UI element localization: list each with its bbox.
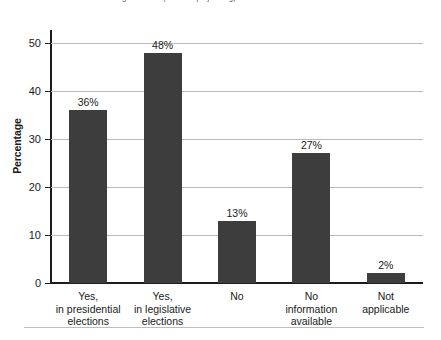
category-label-line-1: Not bbox=[341, 290, 431, 303]
bar-value-label-3: 13% bbox=[207, 208, 267, 219]
bar-value-label-4: 27% bbox=[281, 140, 341, 151]
y-tick-label-0: 0 bbox=[0, 278, 41, 289]
y-tick-label-text: 10 bbox=[0, 230, 41, 241]
y-axis-title: Percentage bbox=[11, 101, 23, 191]
bar-3 bbox=[218, 221, 256, 283]
bar-2 bbox=[144, 53, 182, 283]
bar-value-label-2: 48% bbox=[133, 40, 193, 51]
y-tick-mark-10 bbox=[45, 235, 51, 236]
gridline-50 bbox=[51, 43, 423, 44]
y-tick-label-20: 20 bbox=[0, 182, 41, 193]
bottom-divider bbox=[24, 327, 424, 328]
bar-value-label-5: 2% bbox=[356, 260, 416, 271]
y-tick-mark-50 bbox=[45, 43, 51, 44]
bar-5 bbox=[367, 273, 405, 283]
y-tick-label-text: 30 bbox=[0, 134, 41, 145]
y-tick-mark-0 bbox=[45, 283, 51, 284]
y-tick-label-30: 30 bbox=[0, 134, 41, 145]
y-tick-label-text: 40 bbox=[0, 86, 41, 97]
y-tick-label-40: 40 bbox=[0, 86, 41, 97]
y-tick-label-text: 50 bbox=[0, 38, 41, 49]
bar-4 bbox=[292, 153, 330, 283]
y-tick-label-10: 10 bbox=[0, 230, 41, 241]
bar-chart: Percentage 01020304050 36%48%13%27%2% Ye… bbox=[0, 0, 441, 340]
category-label-line-3: available bbox=[266, 315, 356, 328]
bar-1 bbox=[69, 110, 107, 283]
y-tick-label-text: 20 bbox=[0, 182, 41, 193]
category-label-line-3: elections bbox=[118, 315, 208, 328]
category-label-line-2: in legislative bbox=[118, 303, 208, 316]
y-axis-line bbox=[50, 30, 52, 284]
y-tick-mark-20 bbox=[45, 187, 51, 188]
gridline-40 bbox=[51, 91, 423, 92]
y-tick-label-50: 50 bbox=[0, 38, 41, 49]
y-tick-mark-30 bbox=[45, 139, 51, 140]
y-tick-mark-40 bbox=[45, 91, 51, 92]
bar-value-label-1: 36% bbox=[58, 97, 118, 108]
y-tick-label-text: 0 bbox=[0, 278, 41, 289]
category-label-line-2: applicable bbox=[341, 303, 431, 316]
category-label-5: Notapplicable bbox=[341, 290, 431, 315]
